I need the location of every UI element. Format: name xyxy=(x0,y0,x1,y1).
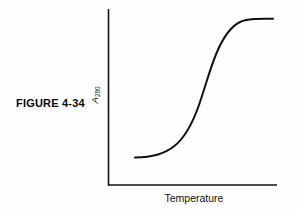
y-axis-symbol: A xyxy=(89,97,100,103)
x-axis-title: Temperature xyxy=(108,192,280,205)
melting-curve-chart xyxy=(0,0,298,210)
y-axis-title-rotated: A280 xyxy=(89,80,103,110)
melting-curve-path xyxy=(135,19,273,158)
y-axis-title: A280 xyxy=(89,80,119,110)
y-axis-subscript: 280 xyxy=(94,87,101,98)
figure-page: FIGURE 4-34 Temperature A280 xyxy=(0,0,298,210)
plot-area xyxy=(0,0,298,210)
